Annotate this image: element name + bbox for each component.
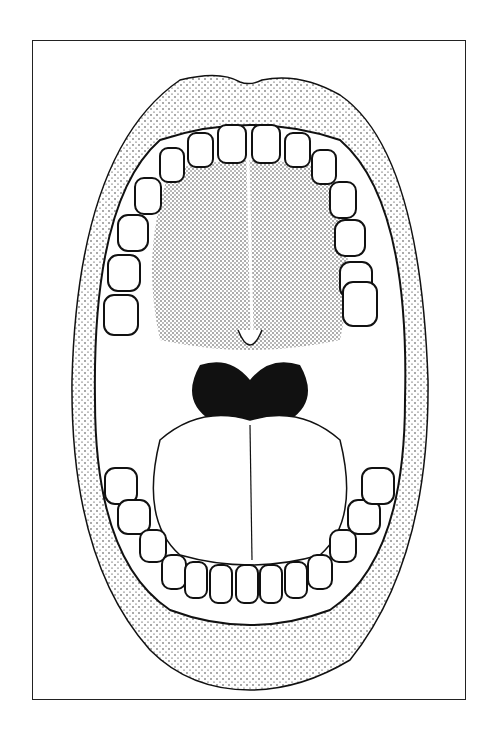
mouth-illustration — [0, 0, 497, 746]
